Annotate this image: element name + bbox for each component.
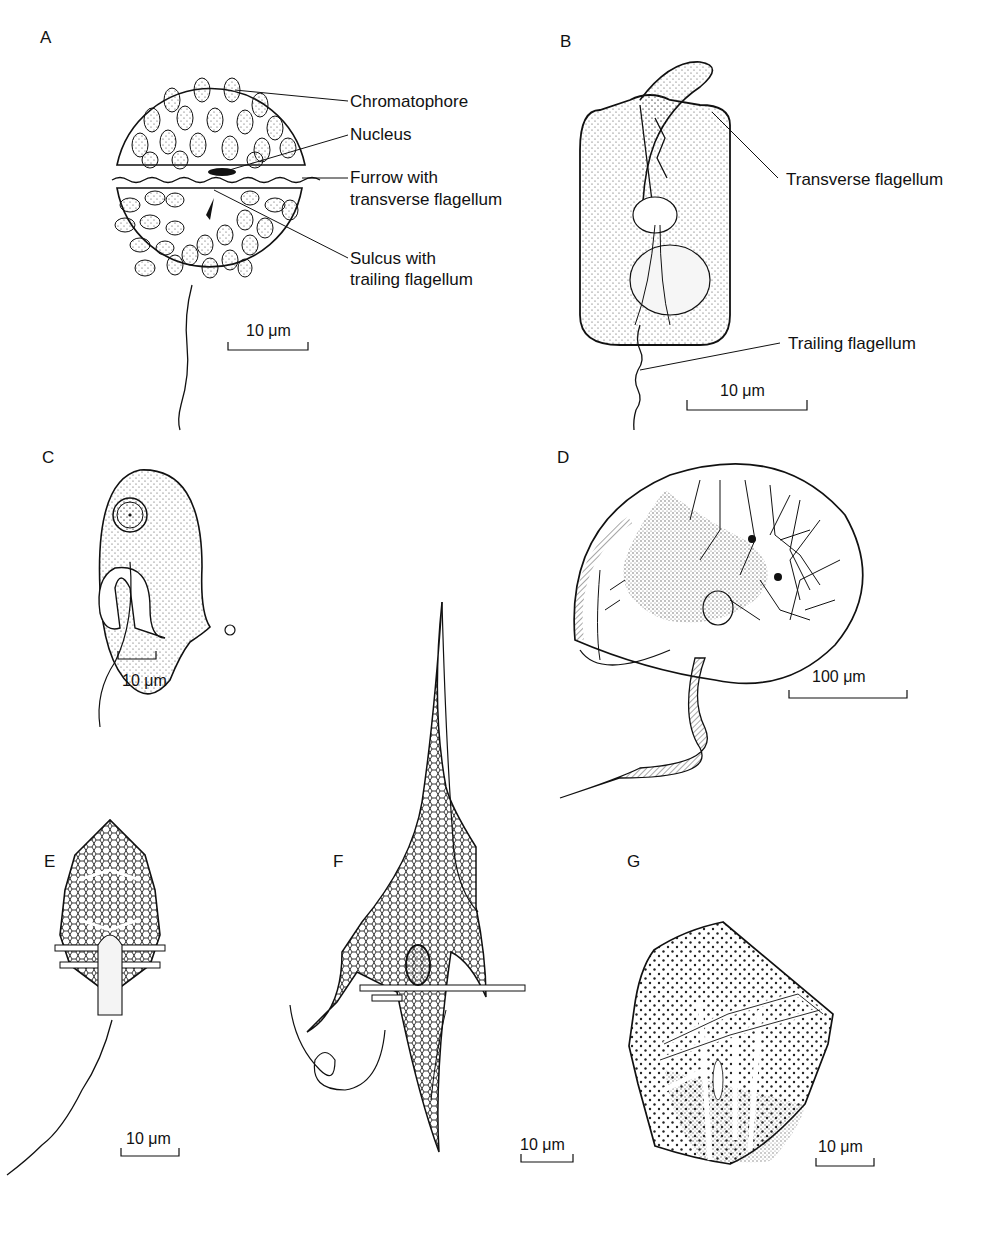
scale-bar-c-label: 10 μm — [122, 672, 167, 690]
callout-transverse-flagellum: Transverse flagellum — [786, 170, 943, 190]
callout-sulcus-line1: Sulcus with — [350, 249, 436, 269]
panel-e-drawing — [7, 820, 179, 1175]
scale-bar-a-label: 10 μm — [246, 322, 291, 340]
panel-label-e: E — [44, 852, 55, 872]
scale-bar-e-label: 10 μm — [126, 1130, 171, 1148]
callout-furrow-line1: Furrow with — [350, 168, 438, 188]
panel-label-f: F — [333, 852, 343, 872]
scale-bar-g-label: 10 μm — [818, 1138, 863, 1156]
panel-f-drawing — [290, 602, 573, 1162]
scale-bar-d-label: 100 μm — [812, 668, 866, 686]
panel-d-drawing — [560, 464, 907, 798]
panel-label-a: A — [40, 28, 51, 48]
panel-label-d: D — [557, 448, 569, 468]
panel-label-b: B — [560, 32, 571, 52]
callout-nucleus: Nucleus — [350, 125, 411, 145]
panel-label-c: C — [42, 448, 54, 468]
panel-label-g: G — [627, 852, 640, 872]
panel-a-drawing — [112, 78, 348, 430]
callout-furrow-line2: transverse flagellum — [350, 190, 502, 210]
callout-chromatophore: Chromatophore — [350, 92, 468, 112]
scale-bar-b-label: 10 μm — [720, 382, 765, 400]
panel-g-drawing — [629, 922, 874, 1166]
panel-c-drawing — [99, 470, 235, 727]
callout-sulcus-line2: trailing flagellum — [350, 270, 473, 290]
callout-trailing-flagellum: Trailing flagellum — [788, 334, 916, 354]
scale-bar-f-label: 10 μm — [520, 1136, 565, 1154]
panel-b-drawing — [580, 62, 807, 430]
